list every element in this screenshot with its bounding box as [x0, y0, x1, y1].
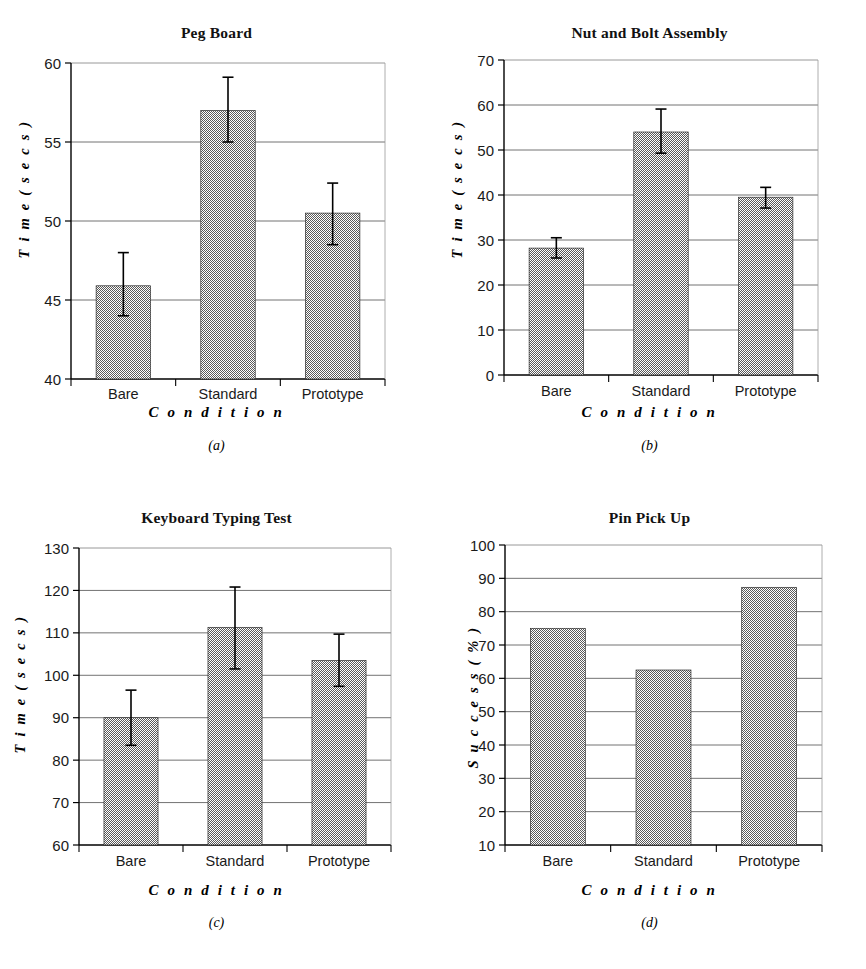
svg-text:110: 110 [45, 624, 69, 641]
svg-text:30: 30 [477, 232, 494, 249]
svg-text:100: 100 [470, 537, 495, 554]
panel-caption: (b) [433, 438, 866, 454]
svg-text:40: 40 [477, 187, 494, 204]
svg-text:130: 130 [44, 540, 69, 557]
x-tick-label: Bare [543, 853, 574, 869]
x-axis-label: C o n d i t i o n [0, 882, 433, 899]
chart-panel-pin-pick-up: Pin Pick Up S u c c e s s ( % ) 10203040… [433, 485, 866, 969]
x-tick-label: Standard [199, 386, 258, 402]
chart-panel-keyboard-typing-test: Keyboard Typing Test T i m e ( s e c s )… [0, 485, 433, 969]
x-tick-label: Standard [632, 383, 691, 399]
chart-panel-peg-board: Peg Board T i m e ( s e c s ) 4045505560… [0, 0, 433, 484]
x-axis-label: C o n d i t i o n [433, 882, 866, 899]
svg-text:60: 60 [44, 55, 61, 72]
svg-text:10: 10 [478, 837, 495, 854]
x-tick-label: Bare [108, 386, 139, 402]
x-tick-label: Prototype [735, 383, 797, 399]
svg-text:50: 50 [478, 703, 495, 720]
figure-panel-grid: Peg Board T i m e ( s e c s ) 4045505560… [0, 0, 866, 969]
svg-text:40: 40 [478, 737, 495, 754]
panel-caption: (d) [433, 915, 866, 931]
panel-caption: (c) [0, 915, 433, 931]
svg-text:120: 120 [44, 582, 69, 599]
x-tick-label: Prototype [308, 853, 370, 869]
svg-text:60: 60 [52, 837, 69, 854]
svg-text:60: 60 [477, 97, 494, 114]
svg-text:60: 60 [478, 670, 495, 687]
svg-text:10: 10 [477, 322, 494, 339]
svg-text:50: 50 [44, 213, 61, 230]
svg-text:70: 70 [477, 52, 494, 69]
chart-panel-nut-and-bolt-assembly: Nut and Bolt Assembly T i m e ( s e c s … [433, 0, 866, 484]
x-tick-label: Bare [116, 853, 147, 869]
svg-text:40: 40 [44, 371, 61, 388]
svg-text:50: 50 [477, 142, 494, 159]
panel-caption: (a) [0, 438, 433, 454]
svg-text:90: 90 [478, 570, 495, 587]
x-tick-label: Standard [634, 853, 693, 869]
svg-text:90: 90 [52, 709, 69, 726]
svg-text:0: 0 [486, 367, 494, 384]
svg-text:20: 20 [478, 803, 495, 820]
svg-text:20: 20 [477, 277, 494, 294]
svg-text:80: 80 [478, 603, 495, 620]
x-tick-label: Bare [541, 383, 572, 399]
svg-text:45: 45 [44, 292, 61, 309]
svg-text:55: 55 [44, 134, 61, 151]
x-tick-label: Standard [206, 853, 265, 869]
svg-text:100: 100 [44, 667, 69, 684]
svg-text:70: 70 [478, 637, 495, 654]
x-axis-label: C o n d i t i o n [0, 404, 433, 421]
svg-text:80: 80 [52, 752, 69, 769]
svg-text:30: 30 [478, 770, 495, 787]
svg-text:70: 70 [52, 794, 69, 811]
x-axis-label: C o n d i t i o n [433, 404, 866, 421]
x-tick-label: Prototype [302, 386, 364, 402]
x-tick-label: Prototype [738, 853, 800, 869]
